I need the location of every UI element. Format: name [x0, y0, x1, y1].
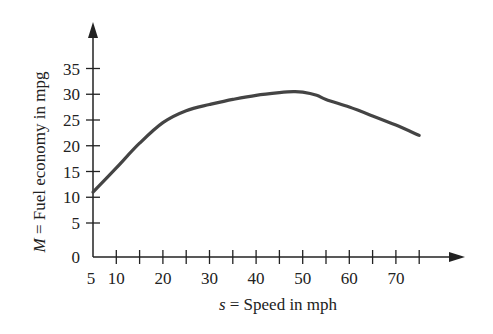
x-tick-label: 40 [248, 269, 265, 288]
y-ticks: 05101520253035 [63, 60, 100, 268]
y-axis-arrow-icon [88, 22, 98, 38]
fuel-economy-curve [93, 92, 419, 192]
x-tick-label: 30 [201, 269, 218, 288]
x-ticks: 510203040506070 [87, 250, 419, 288]
y-tick-label: 15 [63, 163, 80, 182]
x-axis-label: s = Speed in mph [219, 295, 338, 314]
x-axis-arrow-icon [449, 252, 465, 262]
y-tick-label: 0 [72, 248, 81, 267]
y-axis-label: M = Fuel economy in mpg [30, 71, 49, 253]
x-tick-label: 5 [87, 269, 96, 288]
fuel-economy-chart: 05101520253035 510203040506070 s = Speed… [0, 0, 493, 334]
y-tick-label: 10 [63, 188, 80, 207]
x-tick-label: 60 [341, 269, 358, 288]
x-tick-label: 50 [294, 269, 311, 288]
y-tick-label: 20 [63, 137, 80, 156]
y-tick-label: 30 [63, 85, 80, 104]
x-tick-label: 70 [387, 269, 404, 288]
y-tick-label: 25 [63, 111, 80, 130]
y-tick-label: 35 [63, 60, 80, 79]
x-tick-label: 10 [108, 269, 125, 288]
x-tick-label: 20 [154, 269, 171, 288]
y-tick-label: 5 [72, 214, 81, 233]
